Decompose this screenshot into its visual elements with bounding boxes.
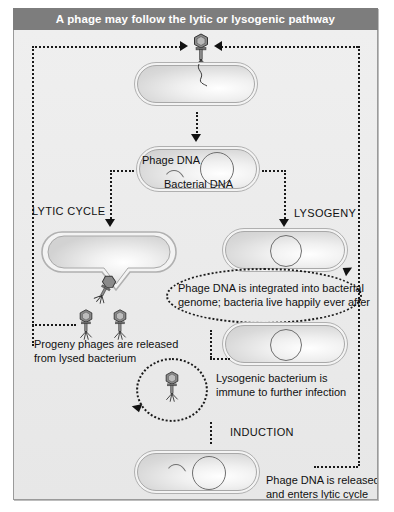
bacterium-lysogenic-1 xyxy=(222,228,348,272)
connector-branch-left xyxy=(110,170,134,172)
injected-dna-icon xyxy=(190,64,216,90)
bacterial-dna-circle xyxy=(192,456,226,490)
connector-lytic-down xyxy=(110,170,112,222)
label-bacterial-dna: Bacterial DNA xyxy=(164,178,233,191)
caption-released: Phage DNA is released and enters lytic c… xyxy=(266,474,377,499)
connector-branch-right xyxy=(262,170,286,172)
connector-lysogeny-to-immunity xyxy=(210,330,212,358)
connector-top-left-horizontal xyxy=(32,46,184,48)
bacterium-lysogenic-2 xyxy=(222,322,348,366)
arrow-to-dna-cell xyxy=(191,134,201,142)
arrow-into-phage-left xyxy=(180,41,188,51)
arrow-to-lysogeny xyxy=(279,219,289,227)
connector-left-vertical xyxy=(32,46,34,346)
figure-root: A phage may follow the lytic or lysogeni… xyxy=(0,0,394,512)
arrow-into-phage-right xyxy=(214,41,222,51)
label-phage-dna: Phage DNA xyxy=(142,154,200,167)
caption-immune: Lysogenic bacterium is immune to further… xyxy=(216,372,346,399)
arrow-immunity-cycle xyxy=(131,401,143,413)
connector-top-right-horizontal xyxy=(218,46,358,48)
connector-progeny-to-left-line xyxy=(32,324,76,326)
figure-title-bar: A phage may follow the lytic or lysogeni… xyxy=(13,8,378,30)
arrow-integration-up xyxy=(343,265,355,277)
connector-lysogeny-down xyxy=(284,170,286,222)
arrow-to-lytic xyxy=(105,219,115,227)
label-lysogeny: LYSOGENY xyxy=(294,207,356,220)
connector-lysogeny-to-immunity-h xyxy=(210,358,230,360)
phage-icon-progeny-1 xyxy=(76,308,96,342)
connector-induction-down xyxy=(210,422,212,444)
connector-right-vertical xyxy=(358,46,360,466)
label-lytic-cycle: LYTIC CYCLE xyxy=(32,205,105,218)
phage-icon-progeny-2 xyxy=(110,308,130,342)
diagram-canvas: Phage DNA Bacterial DNA LYTIC CYCLE LYSO… xyxy=(14,30,377,499)
caption-integrated: Phage DNA is integrated into bacterial g… xyxy=(178,282,370,309)
label-induction: INDUCTION xyxy=(230,426,294,439)
integrated-dna-circle xyxy=(270,235,302,267)
integrated-dna-circle xyxy=(270,329,302,361)
page-title: A phage may follow the lytic or lysogeni… xyxy=(56,13,335,25)
connector-induced-to-right-line xyxy=(314,466,358,468)
phage-icon-immune xyxy=(162,370,182,404)
bacterium-induced xyxy=(134,450,260,494)
